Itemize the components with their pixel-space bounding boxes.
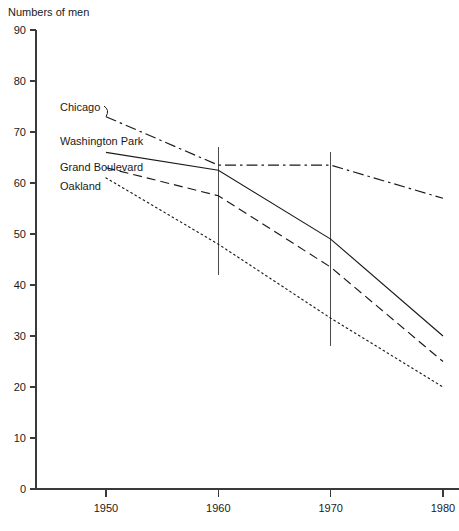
y-tick-label: 90 [14,24,26,36]
x-tick-label: 1960 [206,502,230,514]
y-tick-label: 0 [20,483,26,495]
chart-figure: Numbers of men 0102030405060708090 19501… [0,0,459,531]
errorbar-group [218,147,330,346]
x-tick-label: 1970 [318,502,342,514]
chicago-leader-line [104,106,108,117]
y-tick-label: 20 [14,381,26,393]
series-label-grand-boulevard: Grand Boulevard [60,161,143,174]
x-axis: 1950196019701980 [36,489,459,514]
series-label-chicago: Chicago [60,101,100,114]
series-line-chicago [106,117,443,199]
x-tick-label: 1980 [431,502,455,514]
y-tick-label: 50 [14,228,26,240]
y-axis: 0102030405060708090 [14,24,36,495]
series-label-oakland: Oakland [60,180,101,193]
y-tick-label: 60 [14,177,26,189]
x-tick-label: 1950 [94,502,118,514]
series-line-oakland [106,178,443,387]
series-group [106,117,443,387]
y-tick-label: 40 [14,279,26,291]
y-tick-label: 80 [14,75,26,87]
series-label-washington-park: Washington Park [60,135,143,148]
y-tick-label: 30 [14,330,26,342]
y-tick-label: 10 [14,432,26,444]
leader-line-group [104,106,108,117]
chart-plot-area: 0102030405060708090 1950196019701980 [0,0,459,531]
series-line-washington-park [106,152,443,336]
series-line-grand-boulevard [106,168,443,362]
y-tick-label: 70 [14,126,26,138]
